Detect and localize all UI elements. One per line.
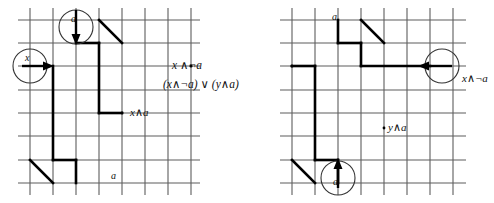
right-path-label: y∧a (388, 122, 406, 133)
left-x-circle-label: x (25, 53, 29, 63)
left-path-label: x∧a (130, 107, 148, 118)
left-a-input-annotation (59, 10, 93, 45)
left-panel-grid (18, 8, 200, 195)
right-ya-dot (383, 127, 386, 130)
right-panel-grid (280, 8, 466, 195)
left-diagonal-bottom (30, 160, 53, 183)
left-a-circle-label: a (71, 14, 76, 24)
middle-expression-line2: (x∧¬a) ∨ (y∧a) (163, 79, 239, 91)
right-diagonal-top (361, 20, 384, 43)
left-diagonal-top (99, 20, 122, 43)
middle-expression-line1: x ∧¬a (172, 60, 202, 72)
right-a-circle-label: a (333, 177, 338, 187)
right-top-label: a (332, 12, 337, 22)
right-output-arrow-head (418, 62, 429, 71)
left-bottom-label: a (111, 171, 116, 181)
right-output-label: x∧¬a (462, 73, 488, 84)
left-xa-dot (121, 112, 124, 115)
right-diagonal-bottom (292, 160, 315, 183)
circuit-grid-figure (0, 0, 494, 203)
right-input-dot (290, 64, 293, 67)
